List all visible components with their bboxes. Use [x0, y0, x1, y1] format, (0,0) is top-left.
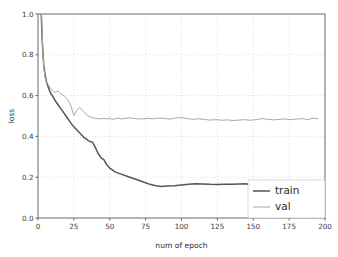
x-tick-label: 50 [105, 222, 115, 231]
x-tick-label: 100 [175, 222, 189, 231]
y-axis-title: loss [7, 109, 16, 124]
legend-label-val: val [275, 200, 291, 212]
x-axis-title: num of epoch [155, 241, 207, 250]
y-tick-label: 0.2 [22, 173, 33, 182]
y-tick-label: 1.0 [22, 10, 34, 19]
y-tick-label: 0.6 [22, 91, 34, 100]
x-tick-label: 125 [211, 222, 225, 231]
loss-curve-chart: 02550751001251501752000.00.20.40.60.81.0… [0, 0, 338, 257]
y-tick-label: 0.0 [22, 214, 34, 223]
chart-canvas: 02550751001251501752000.00.20.40.60.81.0… [0, 0, 338, 257]
x-tick-label: 0 [36, 222, 41, 231]
x-tick-label: 150 [246, 222, 260, 231]
chart-legend[interactable]: trainval [248, 180, 325, 218]
y-tick-label: 0.8 [22, 50, 34, 59]
x-tick-label: 175 [282, 222, 296, 231]
x-tick-label: 200 [318, 222, 332, 231]
x-tick-label: 25 [69, 222, 78, 231]
y-tick-label: 0.4 [22, 132, 34, 141]
x-tick-label: 75 [141, 222, 150, 231]
legend-label-train: train [275, 184, 299, 196]
